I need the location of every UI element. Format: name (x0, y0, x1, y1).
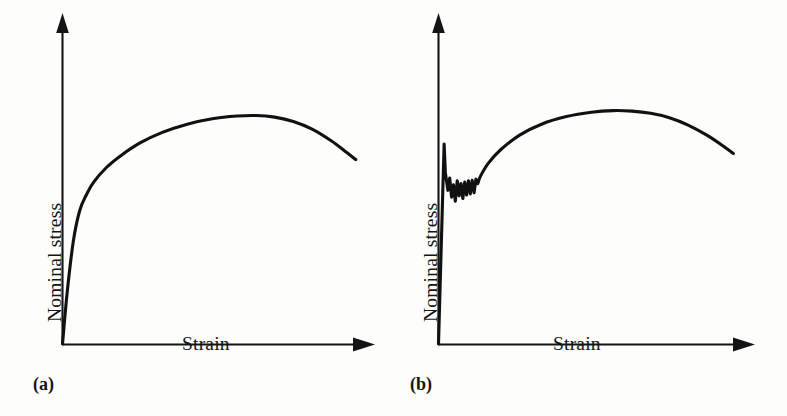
panel-b-stress-strain-curve (439, 111, 734, 344)
panel-a-axes (56, 13, 375, 352)
panel-b-y-axis-label: Nominal stress (420, 203, 442, 322)
panel-a-curve-group (63, 115, 356, 344)
panel-b-caption: (b) (410, 374, 432, 395)
figure-root: Strain Nominal stress (a) Strain Nominal… (0, 0, 787, 416)
panel-a-caption: (a) (33, 374, 54, 395)
panel-b-axes (432, 13, 755, 352)
panel-a-x-axis-label: Strain (182, 333, 230, 355)
panel-b-x-axis-arrowhead (733, 337, 755, 351)
panel-b-y-axis-arrowhead (432, 13, 445, 33)
panel-b-x-axis-label: Strain (553, 333, 601, 355)
panel-a-x-axis-arrowhead (353, 337, 375, 351)
panel-a-y-axis-label: Nominal stress (44, 203, 66, 322)
panel-a-stress-strain-curve (63, 115, 356, 344)
panel-a-y-axis-arrowhead (56, 13, 69, 33)
stress-strain-figure (0, 0, 787, 416)
panel-b-curve-group (439, 111, 734, 344)
